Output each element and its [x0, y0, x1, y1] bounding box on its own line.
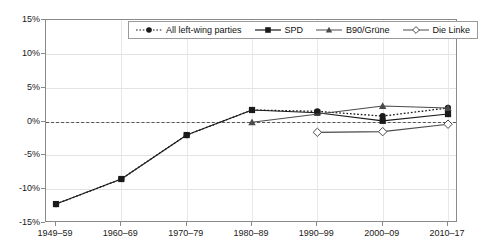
legend-label-all-left-wing-parties: All left-wing parties	[166, 26, 242, 35]
y-axis-tick-label: 15%	[22, 14, 40, 24]
chart-legend: All left-wing parties SPD B90/Grüne Die …	[128, 21, 478, 39]
data-point-filled-square-icon	[445, 111, 451, 117]
series-b90-gr-ne	[248, 102, 451, 125]
legend-marker-open-diamond-solid-icon	[403, 25, 429, 35]
legend-label-spd: SPD	[285, 26, 304, 35]
data-point-open-diamond-icon	[444, 120, 452, 128]
x-axis-tick-label: 2000–09	[364, 228, 399, 238]
legend-marker-filled-square-solid-icon	[255, 25, 281, 35]
x-axis-tick-mark	[251, 222, 252, 226]
x-axis-tick-label: 2010–17	[429, 228, 464, 238]
legend-item-die-linke: Die Linke	[403, 25, 471, 35]
legend-item-spd: SPD	[255, 25, 304, 35]
data-point-filled-square-icon	[249, 107, 255, 113]
y-axis-tick-label: 10%	[22, 48, 40, 58]
legend-label-die-linke: Die Linke	[433, 26, 471, 35]
x-axis-tick-mark	[55, 222, 56, 226]
x-axis-tick-label: 1949–59	[37, 228, 72, 238]
x-axis-tick-label: 1970–79	[168, 228, 203, 238]
x-axis-tick-label: 1990–99	[299, 228, 334, 238]
x-axis: 1949–591960–691970–791980–891990–992000–…	[45, 222, 457, 248]
legend-marker-filled-triangle-solid-icon	[316, 25, 342, 35]
x-axis-tick-label: 1960–69	[103, 228, 138, 238]
x-axis-tick-mark	[120, 222, 121, 226]
x-axis-tick-mark	[447, 222, 448, 226]
y-axis-tick-label: -10%	[19, 183, 40, 193]
legend-marker-filled-circle-dotted-icon	[136, 25, 162, 35]
data-point-filled-square-icon	[380, 118, 386, 124]
data-point-filled-square-icon	[184, 132, 190, 138]
data-point-open-diamond-icon	[378, 127, 386, 135]
x-axis-tick-mark	[382, 222, 383, 226]
data-series-layer	[46, 20, 458, 223]
x-axis-tick-mark	[186, 222, 187, 226]
x-axis-tick-label: 1980–89	[233, 228, 268, 238]
plot-area	[45, 19, 457, 222]
legend-item-all-left-wing-parties: All left-wing parties	[136, 25, 242, 35]
y-axis-tick-label: -15%	[19, 217, 40, 227]
data-point-open-diamond-icon	[313, 128, 321, 136]
y-axis-tick-label: 5%	[27, 82, 40, 92]
y-axis: 15%10%5%0%-5%-10%-15%	[0, 19, 45, 222]
y-axis-tick-label: -5%	[24, 149, 40, 159]
x-axis-tick-mark	[316, 222, 317, 226]
data-point-filled-square-icon	[118, 176, 124, 182]
data-point-filled-square-icon	[53, 201, 59, 207]
legend-item-b90-gruene: B90/Grüne	[316, 25, 390, 35]
y-axis-tick-label: 0%	[27, 116, 40, 126]
legend-label-b90-gruene: B90/Grüne	[346, 26, 390, 35]
